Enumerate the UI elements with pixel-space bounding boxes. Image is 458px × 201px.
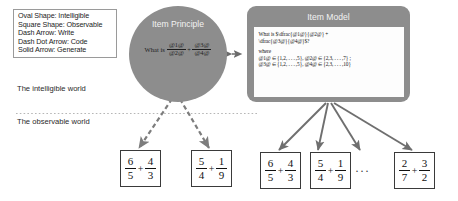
denominator: @4@: [192, 49, 211, 57]
denominator: 2: [419, 170, 430, 183]
fraction-right: 1 9: [335, 158, 346, 183]
fraction-right: 3 2: [419, 158, 430, 183]
shape-and-arrow-legend: Oval Shape: Intelligible Square Shape: O…: [13, 9, 117, 58]
item-expression: 2 7 + 3 2: [399, 158, 430, 183]
code-line-2: \dfrac{@3@}{@4@}$?: [259, 38, 400, 45]
operator: +: [278, 165, 284, 176]
fraction-left: 5 4: [196, 156, 207, 181]
denominator: 5: [125, 168, 136, 181]
fraction-right: 1 9: [216, 156, 227, 181]
numerator: @1@: [167, 42, 186, 49]
label-observable-world: The observable world: [17, 117, 90, 126]
numerator: @3@: [192, 42, 211, 49]
legend-row-solid: Solid Arrow: Generate: [18, 46, 113, 55]
denominator: 3: [145, 168, 156, 181]
expression-fraction-right: @3@ @4@: [192, 42, 211, 57]
denominator: 9: [216, 168, 227, 181]
operator: +: [138, 163, 144, 174]
denominator: @2@: [167, 49, 186, 57]
numerator: 3: [419, 158, 430, 170]
fraction-right: 4 3: [145, 156, 156, 181]
fraction-left: 2 7: [399, 158, 410, 183]
item-expression: 6 5 + 4 3: [125, 156, 156, 181]
item-principle-expression: What is @1@ @2@ + @3@ @4@: [145, 42, 212, 57]
where-line-1: @1@ ∈ {1,2, . . . ,5}, @2@ ∈ {2,3, . . .…: [259, 55, 400, 62]
intelligible-item-box-2: 5 4 + 1 9: [191, 150, 232, 187]
intelligible-item-box-1: 6 5 + 4 3: [120, 150, 161, 187]
numerator: 4: [285, 158, 296, 170]
denominator: 7: [399, 170, 410, 183]
item-expression: 5 4 + 1 9: [196, 156, 227, 181]
item-principle-oval: Item Principle What is @1@ @2@ + @3@ @4@: [129, 6, 227, 102]
fraction-right: 4 3: [285, 158, 296, 183]
fraction-left: 5 4: [315, 158, 326, 183]
where-line-2: @3@ ∈ {1,2, . . . ,5}, @4@ ∈ {2,3, . . .…: [259, 61, 400, 68]
operator: +: [209, 163, 215, 174]
item-expression: 6 5 + 4 3: [265, 158, 296, 183]
numerator: 1: [335, 158, 346, 170]
denominator: 5: [265, 170, 276, 183]
item-model-box: Item Model What is $\dfrac{@1@}{@2@} + \…: [247, 6, 410, 102]
expression-operator: +: [187, 46, 191, 53]
observable-item-box-2: 5 4 + 1 9: [310, 152, 351, 189]
expression-lead: What is: [145, 46, 165, 53]
observable-item-box-1: 6 5 + 4 3: [260, 152, 301, 189]
operator: +: [328, 165, 334, 176]
numerator: 5: [315, 158, 326, 170]
item-model-title: Item Model: [307, 12, 350, 22]
denominator: 4: [196, 168, 207, 181]
numerator: 5: [196, 156, 207, 168]
denominator: 3: [285, 170, 296, 183]
numerator: 1: [216, 156, 227, 168]
label-intelligible-world: The intelligible world: [17, 84, 86, 93]
denominator: 9: [335, 170, 346, 183]
code-line-1: What is $\dfrac{@1@}{@2@} +: [259, 31, 400, 38]
numerator: 6: [125, 156, 136, 168]
numerator: 2: [399, 158, 410, 170]
expression-fraction-left: @1@ @2@: [167, 42, 186, 57]
denominator: 4: [315, 170, 326, 183]
fraction-left: 6 5: [265, 158, 276, 183]
item-principle-title: Item Principle: [152, 19, 204, 29]
observable-item-box-3: 2 7 + 3 2: [394, 152, 435, 189]
item-model-code-panel: What is $\dfrac{@1@}{@2@} + \dfrac{@3@}{…: [254, 27, 404, 97]
operator: +: [412, 165, 418, 176]
content-layer: Oval Shape: Intelligible Square Shape: O…: [0, 0, 458, 201]
diagram-canvas: Oval Shape: Intelligible Square Shape: O…: [0, 0, 458, 201]
numerator: 6: [265, 158, 276, 170]
where-label: where: [259, 48, 400, 55]
numerator: 4: [145, 156, 156, 168]
item-expression: 5 4 + 1 9: [315, 158, 346, 183]
items-ellipsis: ···: [355, 165, 370, 177]
fraction-left: 6 5: [125, 156, 136, 181]
